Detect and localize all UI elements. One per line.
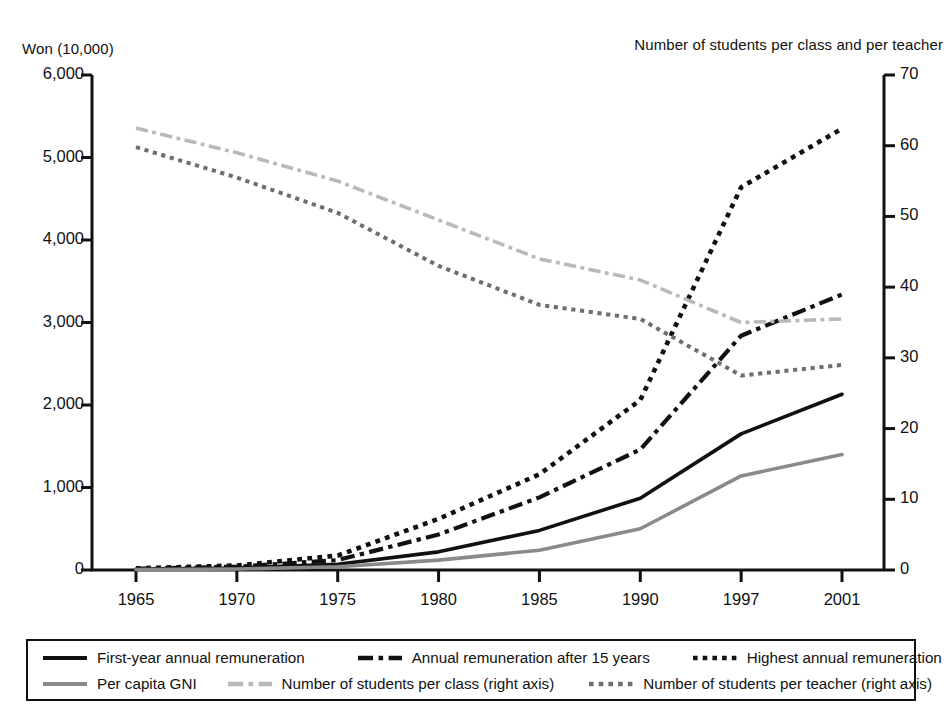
legend-item[interactable]: Highest annual remuneration [692, 650, 942, 665]
right-axis-tick-label: 10 [900, 488, 949, 507]
series-line-4 [136, 455, 842, 570]
left-axis-tick-label: 5,000 [6, 147, 84, 166]
left-axis-tick-label: 3,000 [6, 312, 84, 331]
legend-swatch-dotted-icon [692, 651, 738, 665]
legend-swatch-solid-icon [42, 677, 88, 691]
right-axis-tick-label: 30 [900, 347, 949, 366]
left-axis-tick-label: 2,000 [6, 394, 84, 413]
x-axis-tick-label: 1965 [96, 590, 176, 609]
legend-item[interactable]: Annual remuneration after 15 years [357, 650, 650, 665]
left-axis-tick-label: 4,000 [6, 229, 84, 248]
legend-label: Highest annual remuneration [747, 650, 942, 665]
x-axis-tick-label: 1980 [399, 590, 479, 609]
legend-row: Per capita GNINumber of students per cla… [28, 671, 914, 697]
x-axis-tick-label: 1970 [197, 590, 277, 609]
right-axis-tick-label: 0 [900, 559, 949, 578]
legend-label: Number of students per class (right axis… [282, 676, 555, 691]
series-line-2 [136, 294, 842, 568]
series-line-1 [136, 394, 842, 569]
left-axis-tick-label: 0 [6, 559, 84, 578]
right-axis-tick-label: 40 [900, 276, 949, 295]
right-axis-tick-label: 60 [900, 135, 949, 154]
left-axis-tick-label: 1,000 [6, 477, 84, 496]
legend-item[interactable]: Number of students per class (right axis… [227, 676, 555, 691]
x-axis-tick-label: 1997 [701, 590, 781, 609]
legend-swatch-dash-dot-icon [227, 677, 273, 691]
x-axis-tick-label: 1985 [499, 590, 579, 609]
chart-legend: First-year annual remunerationAnnual rem… [26, 639, 916, 701]
right-axis-tick-label: 50 [900, 205, 949, 224]
x-axis-tick-label: 1975 [298, 590, 378, 609]
legend-label: Number of students per teacher (right ax… [643, 676, 932, 691]
series-line-3 [136, 129, 842, 569]
legend-item[interactable]: Per capita GNI [42, 676, 197, 691]
legend-swatch-dotted-icon [588, 677, 634, 691]
legend-label: Per capita GNI [97, 676, 197, 691]
legend-label: First-year annual remuneration [97, 650, 305, 665]
left-axis-tick-label: 6,000 [6, 64, 84, 83]
legend-row: First-year annual remunerationAnnual rem… [28, 645, 914, 671]
right-axis-tick-label: 20 [900, 418, 949, 437]
legend-item[interactable]: First-year annual remuneration [42, 650, 305, 665]
legend-swatch-dash-dot-icon [357, 651, 403, 665]
series-line-5 [136, 128, 842, 322]
right-axis-tick-label: 70 [900, 64, 949, 83]
legend-label: Annual remuneration after 15 years [412, 650, 650, 665]
chart-figure: Won (10,000) Number of students per clas… [0, 0, 949, 716]
legend-swatch-solid-icon [42, 651, 88, 665]
legend-item[interactable]: Number of students per teacher (right ax… [588, 676, 932, 691]
series-line-6 [136, 147, 842, 375]
x-axis-tick-label: 2001 [802, 590, 882, 609]
x-axis-tick-label: 1990 [600, 590, 680, 609]
